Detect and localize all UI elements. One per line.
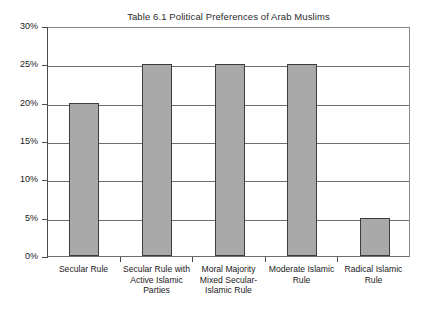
- plot-area: [47, 27, 410, 257]
- y-axis-tick-group: 30%: [0, 27, 47, 28]
- x-axis-category-label: Moral MajorityMixed Secular-Islamic Rule: [192, 264, 265, 296]
- x-axis-label-line: Islamic Rule: [192, 285, 265, 296]
- x-axis-tick: [265, 257, 266, 262]
- x-axis-tick: [337, 257, 338, 262]
- x-axis-tick: [192, 257, 193, 262]
- y-axis-tick: [42, 65, 47, 66]
- x-axis-label-line: Radical Islamic: [337, 264, 410, 275]
- y-axis-tick: [42, 104, 47, 105]
- x-axis-label-line: Parties: [120, 285, 193, 296]
- chart-title: Table 6.1 Political Preferences of Arab …: [47, 11, 410, 22]
- x-axis-category-label: Radical IslamicRule: [337, 264, 410, 285]
- y-axis-label: 15%: [20, 136, 38, 147]
- y-axis-label: 25%: [20, 59, 38, 70]
- y-axis-tick: [42, 27, 47, 28]
- y-axis-label: 30%: [20, 21, 38, 32]
- y-axis-tick: [42, 142, 47, 143]
- y-axis-tick: [42, 219, 47, 220]
- x-axis-label-line: Secular Rule with: [120, 264, 193, 275]
- y-axis-tick-group: 5%: [0, 219, 47, 220]
- bar-chart: Table 6.1 Political Preferences of Arab …: [0, 0, 427, 311]
- y-axis-line: [47, 27, 48, 258]
- y-axis-label: 10%: [20, 174, 38, 185]
- x-axis-category-label: Secular Rule: [47, 264, 120, 275]
- x-axis-category-label: Moderate IslamicRule: [265, 264, 338, 285]
- y-axis-label: 5%: [25, 213, 38, 224]
- x-axis-label-line: Secular Rule: [47, 264, 120, 275]
- y-axis-tick: [42, 257, 47, 258]
- x-axis-tick: [120, 257, 121, 262]
- bar: [69, 103, 99, 256]
- bar: [287, 64, 317, 256]
- y-axis-tick-group: 20%: [0, 104, 47, 105]
- y-axis-tick-group: 0%: [0, 257, 47, 258]
- x-axis-label-line: Moderate Islamic: [265, 264, 338, 275]
- bar: [360, 218, 390, 256]
- x-axis-label-line: Mixed Secular-: [192, 275, 265, 286]
- y-axis-tick: [42, 180, 47, 181]
- x-axis-label-line: Active Islamic: [120, 275, 193, 286]
- x-axis-category-label: Secular Rule withActive IslamicParties: [120, 264, 193, 296]
- x-axis-label-line: Moral Majority: [192, 264, 265, 275]
- y-axis-tick-group: 15%: [0, 142, 47, 143]
- y-axis-tick-group: 10%: [0, 180, 47, 181]
- y-axis-label: 0%: [25, 251, 38, 262]
- bar: [142, 64, 172, 256]
- x-axis-label-line: Rule: [337, 275, 410, 286]
- bar: [215, 64, 245, 256]
- x-axis-label-line: Rule: [265, 275, 338, 286]
- y-axis-tick-group: 25%: [0, 65, 47, 66]
- y-axis-label: 20%: [20, 98, 38, 109]
